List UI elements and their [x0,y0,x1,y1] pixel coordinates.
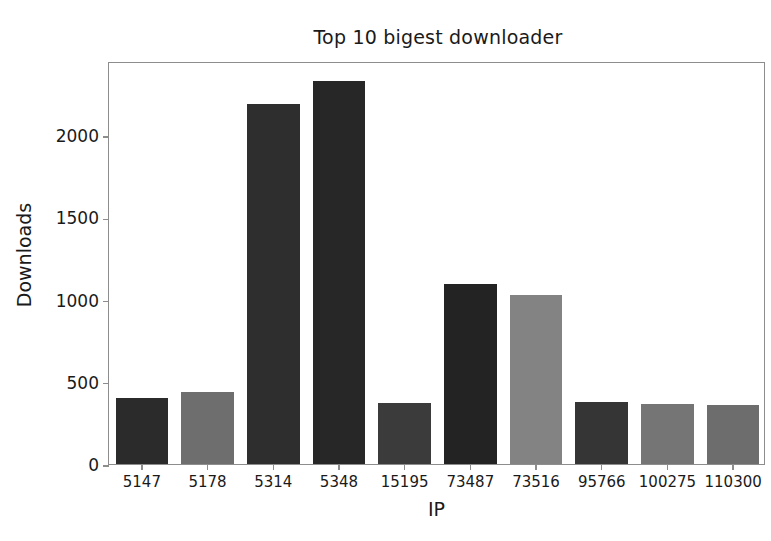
y-tick-label: 0 [88,455,99,475]
x-tick-label: 95766 [578,473,626,491]
x-tick-label: 5348 [320,473,358,491]
x-tick-label: 100275 [639,473,696,491]
bar[interactable] [181,392,234,464]
bar[interactable] [247,104,300,464]
x-tick-mark [207,464,208,470]
x-tick-label: 110300 [705,473,762,491]
bar[interactable] [707,405,760,464]
bar[interactable] [378,403,431,464]
y-tick-mark [103,383,109,384]
x-tick-mark [470,464,471,470]
x-tick-label: 73487 [446,473,494,491]
x-tick-label: 5178 [188,473,226,491]
bar[interactable] [575,402,628,464]
y-tick-mark [103,465,109,466]
bar[interactable] [510,295,563,464]
y-tick-mark [103,219,109,220]
x-axis-label: IP [108,498,765,520]
y-axis-label: Downloads [13,165,35,345]
y-tick-label: 500 [67,373,99,393]
plot-area: 0500100015002000514751785314534815195734… [109,63,764,464]
y-tick-label: 2000 [56,126,99,146]
y-tick-label: 1000 [56,291,99,311]
x-tick-mark [338,464,339,470]
x-tick-mark [141,464,142,470]
x-tick-mark [667,464,668,470]
x-tick-mark [535,464,536,470]
x-tick-label: 5314 [254,473,292,491]
x-tick-mark [601,464,602,470]
y-tick-mark [103,301,109,302]
x-tick-label: 5147 [123,473,161,491]
bar[interactable] [444,284,497,464]
x-tick-label: 15195 [381,473,429,491]
bar[interactable] [116,398,169,464]
bar[interactable] [641,404,694,464]
x-tick-mark [273,464,274,470]
y-tick-mark [103,136,109,137]
x-tick-label: 73516 [512,473,560,491]
chart-figure: Top 10 bigest downloader 050010001500200… [0,0,771,541]
x-tick-mark [732,464,733,470]
chart-title: Top 10 bigest downloader [105,26,771,48]
y-tick-label: 1500 [56,208,99,228]
bar[interactable] [313,81,366,464]
x-tick-mark [404,464,405,470]
chart-axes: 0500100015002000514751785314534815195734… [108,62,765,465]
